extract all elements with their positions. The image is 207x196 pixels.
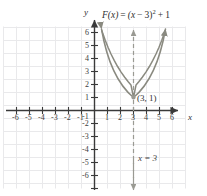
vertex-point [131, 95, 135, 99]
title-minus: − [137, 10, 142, 20]
y-tick-label--3: -3 [82, 133, 89, 141]
graph-figure: y x F(x)=(x−3)2+ 1 -6 -5 -4 -3 -2 -1 1 2… [0, 0, 207, 196]
x-tick-label-4: 4 [144, 114, 148, 122]
x-tick-label--4: -4 [38, 114, 45, 122]
y-tick-label-3: 3 [85, 68, 89, 76]
y-tick-label--5: -5 [82, 159, 89, 167]
y-tick-label-1: 1 [85, 94, 89, 102]
x-tick-label--3: -3 [51, 114, 58, 122]
y-tick-label--4: -4 [82, 146, 89, 154]
y-tick-label-4: 4 [85, 55, 89, 63]
axis-of-symmetry-annotation: x = 3 [138, 154, 157, 163]
x-tick-label-2: 2 [118, 114, 122, 122]
x-tick-label-6: 6 [170, 114, 174, 122]
y-tick-label-6: 6 [85, 29, 89, 37]
x-tick-label--5: -5 [25, 114, 32, 122]
x-tick-label--6: -6 [12, 114, 19, 122]
y-tick-label-2: 2 [85, 81, 89, 89]
title-argument: (x) [108, 10, 119, 20]
y-tick-label--2: -2 [82, 120, 89, 128]
title-equals: = [120, 10, 125, 20]
x-tick-label-1: 1 [105, 114, 109, 122]
x-tick-label-5: 5 [157, 114, 161, 122]
vertex-annotation: (3, 1) [137, 94, 157, 103]
x-tick-label-3: 3 [131, 114, 135, 122]
title-plus-one: + 1 [158, 10, 170, 20]
x-tick-label--2: -2 [64, 114, 71, 122]
function-equation-title: F(x)=(x−3)2+ 1 [102, 9, 170, 21]
coordinate-plane [0, 0, 207, 196]
x-axis-label: x [188, 113, 192, 122]
y-axis-label: y [84, 8, 88, 17]
title-rhs-open: (x [128, 10, 135, 20]
y-tick-label--6: -6 [82, 172, 89, 180]
title-exponent: 2 [152, 8, 155, 15]
y-tick-label-5: 5 [85, 42, 89, 50]
